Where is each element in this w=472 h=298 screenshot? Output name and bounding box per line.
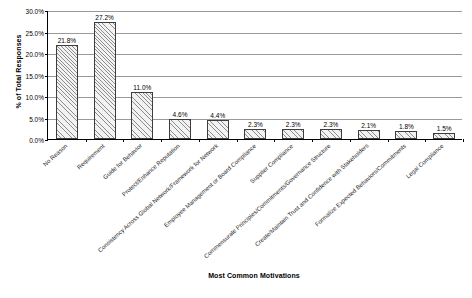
bar-slot: 4.6% <box>161 11 199 139</box>
x-axis-category-label: No Reason <box>42 143 69 168</box>
bar-value-label: 2.3% <box>324 121 339 128</box>
bar[interactable] <box>169 119 191 139</box>
bar-value-label: 4.4% <box>210 112 225 119</box>
bar[interactable] <box>433 133 455 139</box>
y-axis-tick-label: 20.0% <box>12 51 44 58</box>
y-axis-tick-label: 30.0% <box>12 8 44 15</box>
x-axis-category-label: Legal Compliance <box>405 143 445 180</box>
bar-value-label: 2.3% <box>286 121 301 128</box>
bar-chart: % of Total Responses 30.0%25.0%20.0%15.0… <box>0 0 472 298</box>
x-axis-category-label: Commensurate Principles/Commitments/Gove… <box>203 143 332 260</box>
bar-value-label: 27.2% <box>95 14 113 21</box>
bar-slot: 2.3% <box>274 11 312 139</box>
bar[interactable] <box>244 129 266 139</box>
y-axis-tick-label: 15.0% <box>12 72 44 79</box>
y-axis-tick-label: 5.0% <box>12 115 44 122</box>
bar[interactable] <box>395 131 417 139</box>
bar-value-label: 11.0% <box>133 84 151 91</box>
bar-value-label: 1.5% <box>437 125 452 132</box>
bar[interactable] <box>94 22 116 139</box>
x-axis-category-label: Requirement <box>76 143 106 171</box>
bar-slot: 2.1% <box>350 11 388 139</box>
bar-value-label: 1.8% <box>399 123 414 130</box>
bar[interactable] <box>358 130 380 139</box>
bar-value-label: 2.3% <box>248 121 263 128</box>
x-axis-title: Most Common Motivations <box>18 272 472 279</box>
bar[interactable] <box>131 92 153 139</box>
bar-value-label: 21.8% <box>58 37 76 44</box>
bar-slot: 4.4% <box>199 11 237 139</box>
bar-slot: 11.0% <box>123 11 161 139</box>
bar-slot: 1.8% <box>388 11 426 139</box>
y-axis-tick-label: 10.0% <box>12 94 44 101</box>
x-axis-category-labels: No ReasonRequirementGuide for BehaviorPr… <box>0 141 472 261</box>
bar[interactable] <box>56 45 78 139</box>
bar-series: 21.8%27.2%11.0%4.6%4.4%2.3%2.3%2.3%2.1%1… <box>48 11 462 139</box>
bar-value-label: 2.1% <box>361 122 376 129</box>
x-axis-category-label: Guide for Behavior <box>102 143 144 182</box>
bar-slot: 27.2% <box>86 11 124 139</box>
plot-area: 21.8%27.2%11.0%4.6%4.4%2.3%2.3%2.3%2.1%1… <box>47 11 462 140</box>
bar[interactable] <box>320 129 342 139</box>
bar[interactable] <box>207 120 229 139</box>
bar-slot: 2.3% <box>312 11 350 139</box>
bar-slot: 1.5% <box>425 11 463 139</box>
bar-slot: 21.8% <box>48 11 86 139</box>
bar[interactable] <box>282 129 304 139</box>
bar-value-label: 4.6% <box>173 111 188 118</box>
y-axis-tick-label: 25.0% <box>12 29 44 36</box>
bar-slot: 2.3% <box>237 11 275 139</box>
